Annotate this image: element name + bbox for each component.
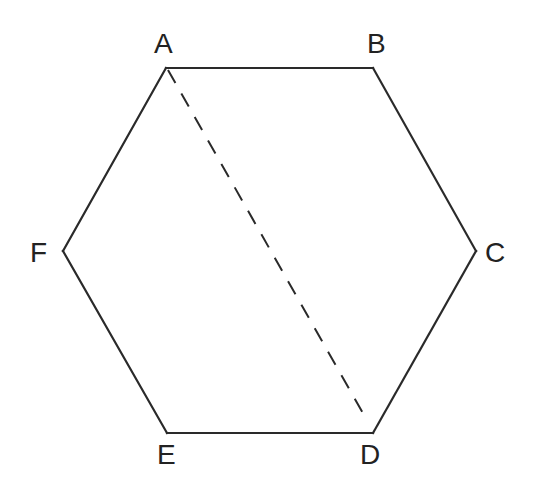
hexagon-diagram: A B C D E F [0, 0, 534, 485]
edge-fa [63, 68, 166, 251]
edge-ef [63, 251, 167, 433]
vertex-label-a: A [154, 28, 173, 59]
vertex-label-e: E [157, 439, 176, 470]
vertex-label-d: D [360, 439, 380, 470]
diagonal-ad [168, 70, 368, 422]
vertex-label-b: B [367, 28, 386, 59]
edge-cd [373, 251, 476, 433]
vertex-label-f: F [30, 237, 47, 268]
edge-bc [373, 68, 476, 251]
vertex-label-c: C [485, 237, 505, 268]
